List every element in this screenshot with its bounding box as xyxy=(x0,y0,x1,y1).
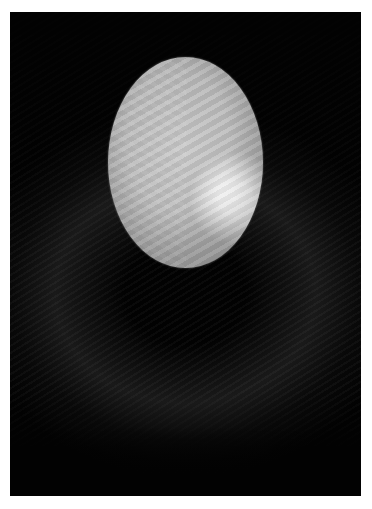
glowing-oval xyxy=(108,57,263,268)
photo-frame xyxy=(10,12,361,496)
background-bottom-fade xyxy=(10,426,361,496)
oval-edge-shading xyxy=(108,57,263,268)
